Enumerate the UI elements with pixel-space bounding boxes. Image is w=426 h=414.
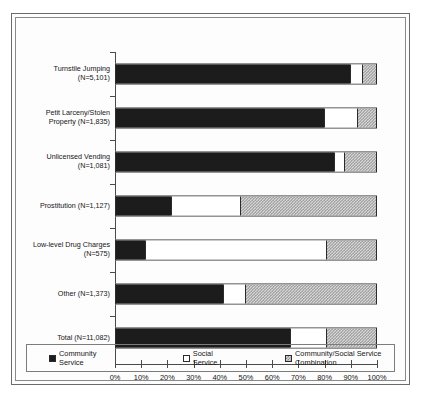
bar-segment-community-service — [116, 241, 145, 260]
bar-row: Turnstile Jumping (N=5,101) — [16, 52, 405, 96]
bar-segment-combination — [327, 241, 376, 260]
y-axis-tick — [110, 52, 116, 53]
category-label: Petit Larceny/Stolen Property (N=1,835) — [22, 109, 110, 126]
bar-segment-community-service — [116, 197, 171, 216]
stacked-bar — [115, 196, 377, 217]
social-service-swatch-icon — [183, 355, 190, 362]
category-label: Other (N=1,373) — [22, 290, 110, 299]
y-axis-tick — [110, 96, 116, 97]
bar-row: Petit Larceny/Stolen Property (N=1,835) — [16, 96, 405, 140]
category-label: Low-level Drug Charges (N=575) — [22, 241, 110, 258]
bar-segment-social-service — [350, 65, 363, 84]
bar-segment-combination — [363, 65, 376, 84]
y-axis-tick — [110, 228, 116, 229]
bar-segment-community-service — [116, 153, 334, 172]
x-axis-tick-label: 100% — [360, 373, 394, 382]
bar-segment-combination — [345, 153, 376, 172]
y-axis-tick — [110, 272, 116, 273]
legend-label: Social Service — [193, 349, 227, 367]
bar-segment-social-service — [171, 197, 241, 216]
bar-row: Prostitution (N=1,127) — [16, 184, 405, 228]
stacked-bar — [115, 240, 377, 261]
category-label: Prostitution (N=1,127) — [22, 202, 110, 211]
bar-row: Other (N=1,373) — [16, 272, 405, 316]
legend-item: Community Service — [49, 349, 107, 367]
stacked-bar — [115, 64, 377, 85]
bar-segment-social-service — [223, 285, 246, 304]
legend-item: Social Service — [183, 349, 227, 367]
y-axis-tick — [110, 184, 116, 185]
stacked-bar — [115, 108, 377, 129]
bar-row: Unlicensed Vending (N=1,081) — [16, 140, 405, 184]
stacked-bar — [115, 152, 377, 173]
bar-segment-combination — [358, 109, 376, 128]
bar-segment-social-service — [145, 241, 327, 260]
bar-segment-combination — [241, 197, 376, 216]
category-label: Unlicensed Vending (N=1,081) — [22, 153, 110, 170]
bar-row: Low-level Drug Charges (N=575) — [16, 228, 405, 272]
category-label: Total (N=11,082) — [22, 334, 110, 343]
figure-frame-inner-rule: Turnstile Jumping (N=5,101)Petit Larceny… — [15, 17, 406, 381]
stacked-bar — [115, 284, 377, 305]
legend-label: Community Service — [59, 349, 107, 367]
chart-legend: Community ServiceSocial ServiceCommunity… — [26, 344, 395, 372]
bar-segment-social-service — [334, 153, 344, 172]
bar-segment-community-service — [116, 109, 324, 128]
y-axis-tick — [110, 316, 116, 317]
bar-segment-combination — [246, 285, 376, 304]
bar-segment-community-service — [116, 285, 223, 304]
legend-item: Community/Social Service Combination — [285, 349, 394, 367]
category-label: Turnstile Jumping (N=5,101) — [22, 65, 110, 82]
chart-plot-area: Turnstile Jumping (N=5,101)Petit Larceny… — [16, 18, 405, 380]
legend-label: Community/Social Service Combination — [295, 349, 394, 367]
combination-swatch-icon — [285, 355, 292, 362]
community-service-swatch-icon — [49, 355, 56, 362]
bar-segment-social-service — [324, 109, 358, 128]
figure-frame: Turnstile Jumping (N=5,101)Petit Larceny… — [11, 13, 410, 385]
bar-segment-community-service — [116, 65, 350, 84]
y-axis-tick — [110, 140, 116, 141]
